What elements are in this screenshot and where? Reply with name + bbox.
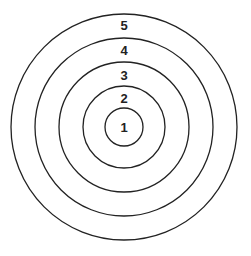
ring-label-3: 3	[120, 68, 127, 83]
ring-label-5: 5	[120, 18, 127, 33]
ring-label-1: 1	[120, 120, 127, 135]
ring-label-2: 2	[120, 91, 127, 106]
ring-label-4: 4	[120, 43, 128, 58]
concentric-circles-diagram: 5 4 3 2 1	[0, 0, 251, 256]
